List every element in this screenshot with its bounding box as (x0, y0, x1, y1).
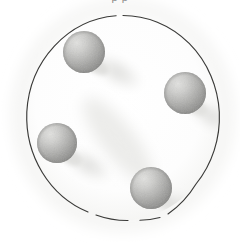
figure-container: p p (0, 0, 240, 243)
sphere-left (37, 123, 77, 163)
sphere-right (164, 72, 206, 114)
sphere-dish-illustration (0, 0, 240, 243)
sphere-top-left (63, 31, 105, 73)
sphere-bottom (130, 167, 172, 209)
